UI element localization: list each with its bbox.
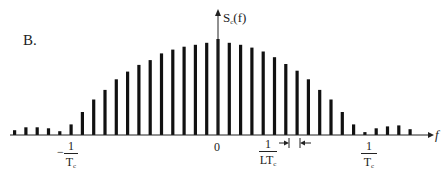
spectral-line [81, 112, 84, 135]
spectral-line [115, 79, 118, 135]
frac-num: 1 [265, 138, 271, 151]
spectral-lines [13, 39, 412, 135]
spectral-line [171, 50, 174, 135]
spectral-line [284, 64, 287, 135]
spectral-line [386, 126, 389, 135]
spectral-line [13, 130, 16, 135]
spectral-line [262, 52, 265, 136]
frac-den: LTc [260, 152, 277, 168]
spectral-line [183, 47, 186, 135]
spectral-line [397, 125, 400, 135]
spectral-line [24, 127, 27, 135]
spectral-line [70, 124, 73, 135]
panel-label: B. [23, 33, 37, 48]
spectral-line [239, 45, 242, 135]
frac-num: 1 [68, 140, 74, 153]
spectral-line [137, 65, 140, 135]
frac-den: Tc [364, 154, 374, 170]
frac-den: Tc [66, 154, 76, 170]
spectral-line [318, 90, 321, 135]
spectral-line [352, 124, 355, 135]
spectral-line [409, 129, 412, 135]
spectral-line [160, 53, 163, 135]
frac-num: 1 [366, 140, 372, 153]
spectral-line [307, 79, 310, 135]
spectral-line [92, 100, 95, 136]
neg-one-over-tc: 1 Tc [64, 140, 78, 170]
spectral-line [205, 43, 208, 135]
spectral-line [228, 43, 231, 135]
spectral-line [103, 90, 106, 135]
arrow-left-icon [300, 141, 305, 146]
y-axis-label: Sc(f) [223, 11, 246, 26]
spectral-line [149, 60, 152, 135]
spectral-line [194, 45, 197, 135]
spectral-line [47, 128, 50, 135]
spectral-line [296, 71, 299, 135]
x-axis-arrow-icon [428, 132, 434, 138]
one-over-ltc: 1 LTc [259, 138, 277, 168]
spectral-line [329, 100, 332, 136]
x-axis-label: f [435, 128, 439, 141]
spectral-line [36, 127, 39, 135]
origin-label: 0 [214, 141, 220, 153]
spectral-line [126, 72, 129, 135]
spectral-line [250, 48, 253, 135]
spectral-line [341, 112, 344, 135]
arrow-right-icon [284, 141, 289, 146]
y-label-arg: (f) [233, 10, 246, 25]
one-over-tc: 1 Tc [361, 140, 377, 170]
spectral-line [58, 131, 61, 135]
spectral-line [273, 57, 276, 135]
spectral-line [375, 128, 378, 135]
y-axis-arrow-icon [215, 9, 221, 16]
neg-sign: − [57, 145, 64, 160]
